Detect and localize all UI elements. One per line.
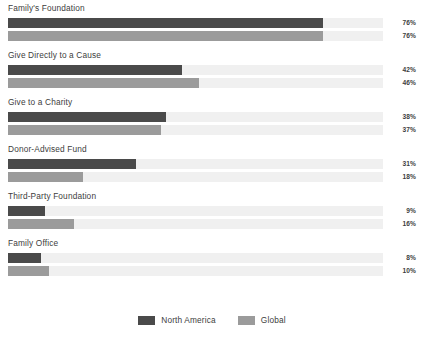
bar-group: Give to a Charity 38% 37% (0, 97, 424, 135)
category-label: Give to a Charity (0, 97, 424, 107)
bar-value-global: 46% (391, 79, 416, 86)
bar-row-global: 37% (8, 125, 416, 135)
bar-fill-north-america (8, 206, 45, 216)
legend-label: North America (161, 315, 216, 325)
category-label: Family's Foundation (0, 3, 424, 13)
chart-groups: Family's Foundation 76% 76% Give Directl… (0, 0, 424, 276)
bar-fill-north-america (8, 159, 136, 169)
category-label: Family Office (0, 238, 424, 248)
bar-value-global: 10% (391, 267, 416, 274)
bar-value-north-america: 76% (391, 19, 416, 26)
bar-fill-north-america (8, 65, 182, 75)
category-label: Donor-Advised Fund (0, 144, 424, 154)
bar-value-north-america: 42% (391, 66, 416, 73)
bar-row-north-america: 38% (8, 112, 416, 122)
bar-fill-global (8, 31, 323, 41)
bar-value-global: 16% (391, 220, 416, 227)
chart-legend: North America Global (0, 315, 424, 325)
bar-value-north-america: 9% (391, 207, 416, 214)
bar-row-north-america: 9% (8, 206, 416, 216)
bar-value-north-america: 8% (391, 254, 416, 261)
bar-value-north-america: 38% (391, 113, 416, 120)
bar-value-global: 18% (391, 173, 416, 180)
bar-group: Family's Foundation 76% 76% (0, 3, 424, 41)
category-label: Third-Party Foundation (0, 191, 424, 201)
bar-row-global: 18% (8, 172, 416, 182)
bar-value-global: 37% (391, 126, 416, 133)
bar-track (8, 266, 383, 276)
bar-fill-global (8, 172, 83, 182)
bar-group: Third-Party Foundation 9% 16% (0, 191, 424, 229)
bar-group: Give Directly to a Cause 42% 46% (0, 50, 424, 88)
bar-value-global: 76% (391, 32, 416, 39)
bar-row-north-america: 42% (8, 65, 416, 75)
bar-group: Family Office 8% 10% (0, 238, 424, 276)
bar-row-north-america: 76% (8, 18, 416, 28)
bar-fill-global (8, 125, 161, 135)
bar-value-north-america: 31% (391, 160, 416, 167)
bar-group: Donor-Advised Fund 31% 18% (0, 144, 424, 182)
bar-row-global: 46% (8, 78, 416, 88)
bar-row-global: 10% (8, 266, 416, 276)
legend-item-global[interactable]: Global (238, 315, 286, 325)
legend-swatch-icon (238, 316, 255, 325)
bar-fill-north-america (8, 253, 41, 263)
bar-row-global: 16% (8, 219, 416, 229)
bar-fill-global (8, 78, 199, 88)
bar-fill-global (8, 266, 49, 276)
bar-row-north-america: 8% (8, 253, 416, 263)
grouped-bar-chart: Family's Foundation 76% 76% Give Directl… (0, 0, 424, 349)
bar-track (8, 253, 383, 263)
bar-fill-north-america (8, 112, 166, 122)
bar-row-global: 76% (8, 31, 416, 41)
bar-fill-global (8, 219, 74, 229)
legend-swatch-icon (138, 316, 155, 325)
category-label: Give Directly to a Cause (0, 50, 424, 60)
legend-item-north-america[interactable]: North America (138, 315, 216, 325)
bar-track (8, 206, 383, 216)
bar-row-north-america: 31% (8, 159, 416, 169)
legend-label: Global (261, 315, 286, 325)
bar-fill-north-america (8, 18, 323, 28)
